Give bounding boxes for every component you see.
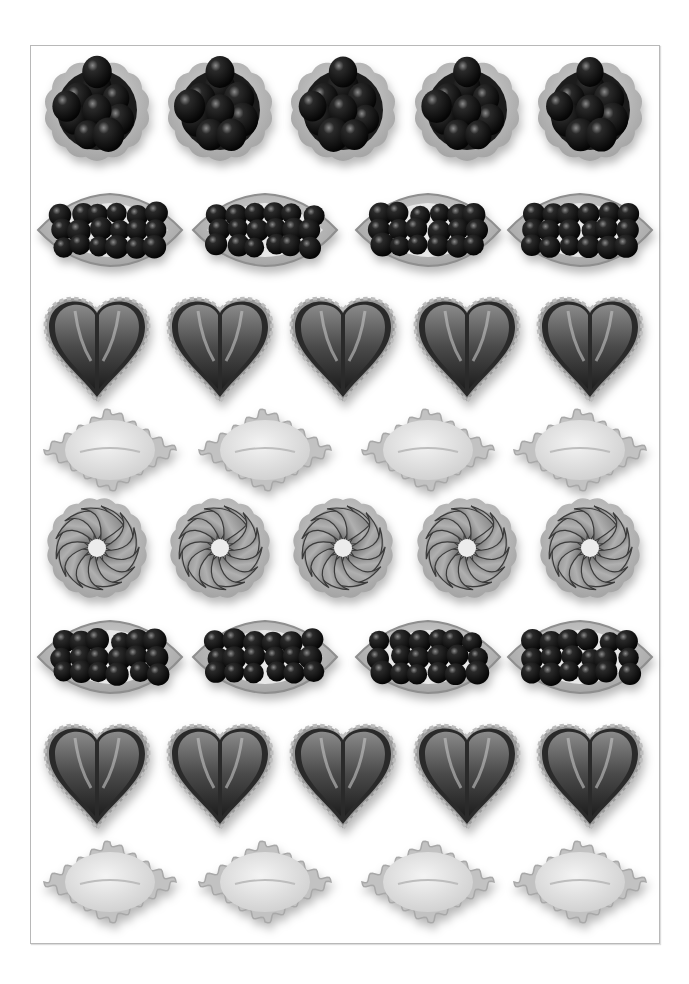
cream-diamond-tart [358,404,498,496]
apple-spiral-tart [168,496,272,600]
berry-round-tart [165,55,275,165]
berry-round-tart [535,55,645,165]
berry-round-tart [288,55,398,165]
strawberry-heart-tart [165,712,275,832]
berry-boat-tart [190,190,340,270]
strawberry-heart-tart [42,285,152,405]
cream-diamond-tart [40,404,180,496]
apple-spiral-tart [291,496,395,600]
apple-spiral-tart [415,496,519,600]
berry-boat-tart [505,617,655,697]
strawberry-heart-tart [535,712,645,832]
cream-diamond-tart [195,404,335,496]
strawberry-heart-tart [165,285,275,405]
berry-boat-tart [353,617,503,697]
berry-boat-tart [35,190,185,270]
apple-spiral-tart [45,496,149,600]
strawberry-heart-tart [535,285,645,405]
berry-round-tart [412,55,522,165]
berry-round-tart [42,55,152,165]
cream-diamond-tart [510,404,650,496]
cream-diamond-tart [195,836,335,928]
strawberry-heart-tart [412,712,522,832]
apple-spiral-tart [538,496,642,600]
strawberry-heart-tart [288,285,398,405]
berry-boat-tart [35,617,185,697]
berry-boat-tart [505,190,655,270]
berry-boat-tart [190,617,340,697]
strawberry-heart-tart [42,712,152,832]
cream-diamond-tart [510,836,650,928]
strawberry-heart-tart [288,712,398,832]
cream-diamond-tart [40,836,180,928]
berry-boat-tart [353,190,503,270]
strawberry-heart-tart [412,285,522,405]
cream-diamond-tart [358,836,498,928]
